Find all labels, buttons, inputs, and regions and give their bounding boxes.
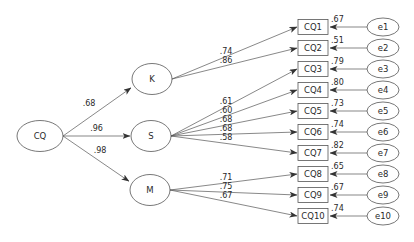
indicator-label-cq3: CQ3: [304, 64, 322, 74]
r2-cq2: .51: [331, 36, 344, 45]
r2-cq10: .74: [331, 204, 344, 213]
indicator-label-cq7: CQ7: [304, 148, 322, 158]
loading-cq10: .67: [220, 191, 233, 200]
latent-label-k: K: [149, 74, 155, 84]
loading-cq8: .71: [220, 173, 233, 182]
path-s-to-cq3: [171, 69, 297, 136]
r2-cq6: .74: [331, 120, 344, 129]
error-label-e4: e4: [378, 85, 389, 95]
indicator-label-cq2: CQ2: [304, 43, 322, 53]
coef-cq-k: .68: [83, 99, 96, 108]
latent-label-m: M: [146, 185, 153, 195]
indicator-label-cq1: CQ1: [304, 22, 322, 32]
error-label-e3: e3: [378, 64, 389, 74]
loading-cq6: .68: [220, 124, 233, 133]
loading-cq5: .68: [220, 115, 233, 124]
error-label-e2: e2: [378, 43, 389, 53]
error-label-e8: e8: [378, 169, 389, 179]
r2-cq1: .67: [331, 15, 344, 24]
indicator-label-cq4: CQ4: [304, 85, 322, 95]
r2-cq8: .65: [331, 162, 344, 171]
loading-cq3: .61: [220, 97, 233, 106]
loading-cq1: .74: [220, 47, 233, 56]
r2-cq7: .82: [331, 141, 344, 150]
coef-cq-s: .96: [90, 124, 103, 133]
indicator-label-cq5: CQ5: [304, 106, 322, 116]
path-m-to-cq8: [170, 174, 297, 190]
r2-cq4: .80: [331, 78, 344, 87]
loading-cq2: .86: [220, 56, 233, 65]
r2-cq3: .79: [331, 57, 344, 66]
error-label-e7: e7: [378, 148, 389, 158]
path-s-to-cq7: [171, 136, 297, 153]
indicator-label-cq6: CQ6: [304, 127, 322, 137]
r2-cq9: .67: [331, 183, 344, 192]
r2-cq5: .73: [331, 99, 344, 108]
coef-cq-m: .98: [94, 146, 107, 155]
indicator-label-cq8: CQ8: [304, 169, 322, 179]
error-label-e1: e1: [378, 22, 389, 32]
path-s-to-cq4: [171, 90, 297, 136]
sem-diagram: CQ.68K.96S.98M.74CQ1.67e1.86CQ2.51e2.61C…: [0, 0, 414, 242]
loading-cq4: .60: [220, 106, 233, 115]
latent-label-cq: CQ: [34, 131, 47, 141]
path-cq-to-m: [63, 136, 129, 181]
error-label-e6: e6: [378, 127, 389, 137]
error-label-e9: e9: [378, 190, 389, 200]
latent-label-s: S: [148, 131, 153, 141]
error-label-e5: e5: [378, 106, 389, 116]
loading-cq9: .75: [220, 182, 233, 191]
loading-cq7: .58: [220, 133, 233, 142]
indicator-label-cq10: CQ10: [301, 211, 324, 221]
indicator-label-cq9: CQ9: [304, 190, 322, 200]
error-label-e10: e10: [375, 211, 391, 221]
